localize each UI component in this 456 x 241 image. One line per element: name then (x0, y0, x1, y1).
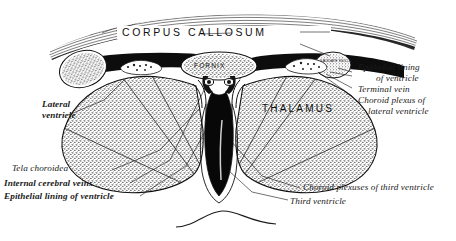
thalamus-title: THALAMUS (262, 103, 334, 114)
label-chp-lat-line1: Choroid plexus of (358, 95, 425, 105)
label-lateral-ventricle-line2: ventricle (42, 110, 76, 120)
label-lateral-ventricle: Lateral ventricle (42, 99, 76, 120)
label-choroid-plexuses-of-third-ventricle: Choroid plexuses of third ventricle (303, 182, 434, 193)
label-epi-right-line1: Epithelial lining (358, 62, 420, 72)
label-epithelial-lining-of-ventricle: Epithelial lining of ventricle (4, 191, 114, 202)
label-epi-right-line2: of ventricle (358, 73, 419, 84)
corpus-callosum-title: CORPUS CALLOSUM (122, 26, 267, 38)
label-terminal-vein: Terminal vein (358, 84, 410, 95)
label-internal-cerebral-veins: Internal cerebral veins (4, 178, 93, 189)
label-epithelial-lining-of-ventricle-right: Epithelial lining of ventricle (358, 62, 420, 83)
fornix-title: FORNIX (194, 62, 226, 69)
caudate-nucleus-title: CAUDATE NUCL. (320, 59, 347, 63)
label-chp-lat-line2: lateral ventricle (358, 106, 429, 117)
label-third-ventricle: Third ventricle (290, 196, 346, 207)
label-tela-choroidea: Tela choroidea (12, 163, 68, 174)
label-choroid-plexus-of-lateral-ventricle: Choroid plexus of lateral ventricle (358, 95, 429, 116)
label-lateral-ventricle-line1: Lateral (42, 99, 70, 109)
anatomical-figure: CORPUS CALLOSUM THALAMUS FORNIX CAUDATE … (0, 0, 456, 241)
